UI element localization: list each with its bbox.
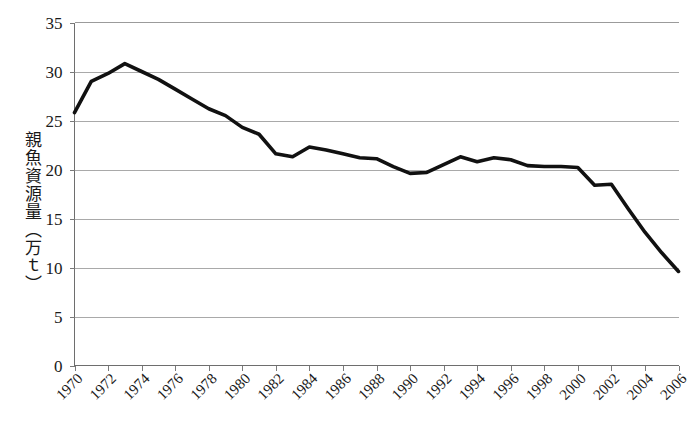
series-line-0: [75, 64, 679, 272]
x-tick-label-1988: 1988: [355, 370, 388, 403]
x-tick-label-2004: 2004: [624, 370, 657, 403]
x-tick-label-1980: 1980: [221, 370, 254, 403]
y-tick-label-0: 0: [54, 357, 63, 376]
chart-plot-area: 05101520253035 1970197219741976197819801…: [0, 0, 694, 431]
x-tick-label-2000: 2000: [556, 370, 589, 403]
x-tick-label-1992: 1992: [422, 370, 455, 403]
spawning-stock-biomass-line-chart: 親魚資源量（万ｔ） 05101520253035 197019721974197…: [0, 0, 694, 431]
x-tick-label-1998: 1998: [523, 370, 556, 403]
x-tick-label-2002: 2002: [590, 370, 623, 403]
x-tick-label-1994: 1994: [456, 370, 489, 403]
data-series-group: [75, 64, 679, 272]
y-tick-label-35: 35: [46, 14, 63, 33]
x-axis-tick-labels: 1970197219741976197819801982198419861988…: [53, 366, 690, 403]
x-tick-label-1978: 1978: [187, 370, 220, 403]
x-tick-label-1984: 1984: [288, 370, 321, 403]
x-tick-label-1974: 1974: [120, 370, 153, 403]
x-tick-label-1996: 1996: [489, 370, 522, 403]
plot-frame-group: [75, 23, 679, 366]
x-tick-label-1986: 1986: [322, 370, 355, 403]
y-tick-label-15: 15: [46, 210, 63, 229]
x-tick-label-1976: 1976: [154, 370, 187, 403]
x-tick-label-1972: 1972: [87, 370, 120, 403]
y-tick-label-25: 25: [46, 112, 63, 131]
x-tick-label-2006: 2006: [657, 370, 690, 403]
y-axis-tick-labels: 05101520253035: [46, 14, 75, 376]
y-tick-label-10: 10: [46, 259, 63, 278]
y-tick-label-30: 30: [46, 63, 63, 82]
x-tick-label-1982: 1982: [254, 370, 287, 403]
x-tick-label-1990: 1990: [389, 370, 422, 403]
gridlines-group: [75, 73, 679, 318]
y-tick-label-20: 20: [46, 161, 63, 180]
y-tick-label-5: 5: [54, 308, 63, 327]
